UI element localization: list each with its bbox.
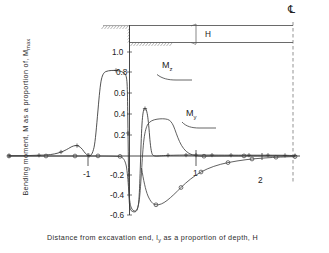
bending-moment-chart: H ℄ -1 1 2 1.0 0.8 0.6	[0, 0, 329, 253]
x-axis-ticks	[88, 150, 262, 166]
y-tick-label-1.0: 1.0	[112, 48, 124, 57]
x-axis-title-text-1: Distance from excavation end, l	[47, 233, 158, 242]
y-tick-label-0.6: 0.6	[114, 89, 126, 98]
series-my-markers	[7, 154, 297, 207]
x-axis-title-text-2: as a proportion of depth, H	[161, 233, 258, 242]
series-my-curve	[9, 119, 295, 211]
centerline-symbol: ℄	[287, 3, 295, 15]
ground-hatching-left	[102, 26, 130, 29]
h-dimension: H	[191, 24, 211, 45]
x-tick-label-2: 2	[258, 175, 263, 185]
my-label-subscript: y	[194, 114, 197, 120]
y-axis-title-text: Bending moment, M as a proportion of, M	[21, 50, 30, 196]
h-dimension-label: H	[205, 30, 211, 39]
mz-label: Mz	[162, 60, 173, 72]
series-my-lower-branch	[142, 157, 296, 205]
my-label: My	[186, 108, 197, 120]
y-tick-label--0.4: -0.4	[110, 191, 125, 200]
x-tick-label--1: -1	[83, 169, 91, 179]
mz-leader-line	[157, 75, 176, 81]
mz-label-subscript: z	[170, 66, 173, 72]
my-leader-line	[182, 122, 199, 128]
annotation-my: My	[182, 108, 216, 128]
y-axis-title-subscript: max	[25, 38, 31, 49]
series-mz-curve	[9, 70, 295, 211]
annotation-mz: Mz	[157, 60, 192, 80]
x-axis-title: Distance from excavation end, ly as a pr…	[47, 233, 258, 243]
y-tick-label-0.2: 0.2	[114, 131, 126, 140]
y-axis-title: Bending moment, M as a proportion of, Mm…	[21, 27, 31, 207]
y-tick-label--0.6: -0.6	[110, 211, 125, 220]
y-tick-label--0.2: -0.2	[110, 171, 125, 180]
y-tick-label-0.4: 0.4	[114, 110, 126, 119]
figure-container: H ℄ -1 1 2 1.0 0.8 0.6	[0, 0, 329, 253]
excavation-base-hatching	[131, 43, 173, 46]
series-mz-markers	[7, 68, 297, 158]
